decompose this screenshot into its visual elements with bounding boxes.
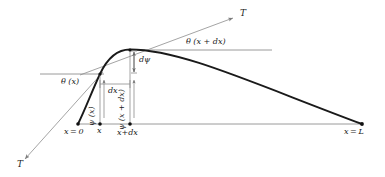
d-psi-label: dψ [139, 56, 150, 64]
marker-x-zero [76, 122, 80, 126]
diagram-vector-layer [0, 0, 385, 177]
psi-x-label: ψ (x) [88, 106, 96, 126]
psi-x-plus-dx-label: ψ (x + dx) [118, 89, 126, 130]
x-zero-label: x = 0 [64, 128, 84, 136]
x-plus-dx-label: x+dx [117, 129, 138, 137]
marker-curve-point-x-plus-dx [128, 48, 131, 51]
marker-x-plus-dx [128, 122, 132, 126]
theta-x-plus-dx-label: θ (x + dx) [186, 38, 226, 46]
tension-label-lower: T [17, 160, 23, 169]
x-length-label: x = L [344, 128, 364, 136]
marker-x-length [360, 122, 364, 126]
marker-curve-point-x [98, 72, 101, 75]
tension-label-upper: T [240, 9, 246, 18]
x-label: x [97, 127, 102, 135]
diagram-canvas: T T θ (x) θ (x + dx) dψ dx ψ (x) ψ (x + … [0, 0, 385, 177]
theta-x-label: θ (x) [61, 78, 79, 86]
